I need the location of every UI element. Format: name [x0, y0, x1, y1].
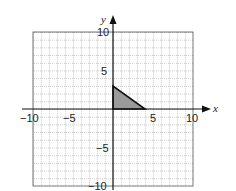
x-axis-label: x	[212, 102, 218, 114]
y-axis-arrow-icon	[110, 15, 117, 24]
y-tick-neg5: −5	[96, 142, 109, 154]
x-tick-neg10: −10	[20, 112, 39, 124]
x-tick-pos10: 10	[186, 112, 198, 124]
y-tick-neg10: −10	[88, 180, 107, 191]
y-tick-pos10: 10	[97, 26, 109, 38]
y-axis-label: y	[100, 13, 106, 25]
coordinate-plane: x y −10 −5 5 10 10 5 −5 −10	[0, 0, 236, 191]
x-axis-arrow-icon	[202, 106, 211, 113]
y-tick-pos5: 5	[101, 65, 107, 77]
x-tick-neg5: −5	[63, 112, 76, 124]
x-tick-pos5: 5	[150, 112, 156, 124]
